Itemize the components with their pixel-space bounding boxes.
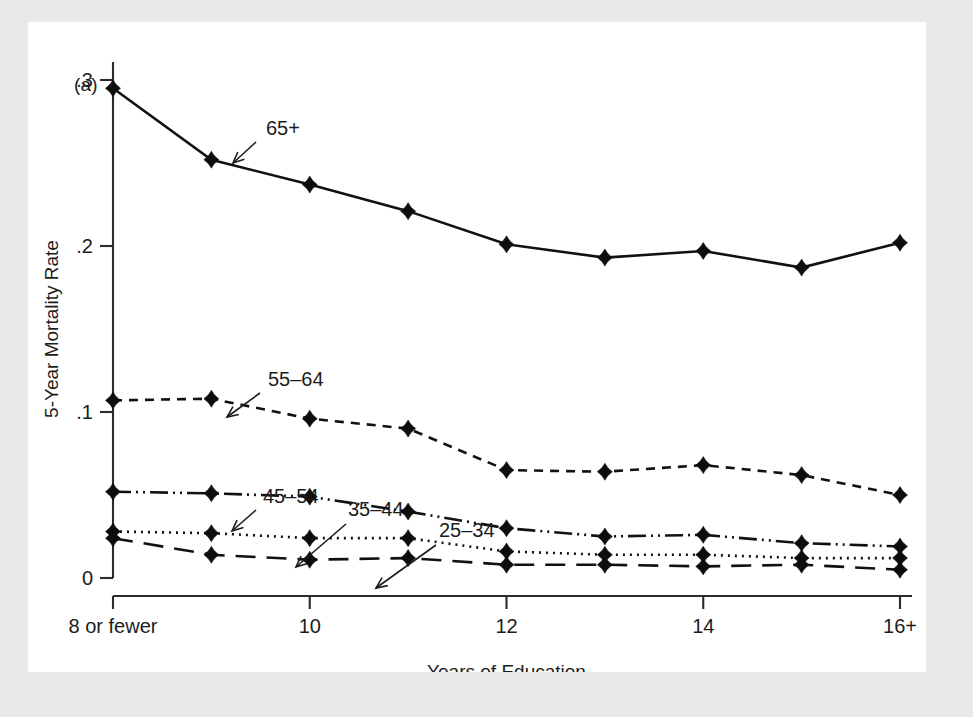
y-tick-label: .1: [76, 401, 93, 423]
y-axis-ticks: 0.1.2.3: [76, 69, 113, 589]
data-marker-55-64: [401, 420, 416, 437]
y-tick-label: .2: [76, 235, 93, 257]
data-marker-55-64: [893, 487, 908, 504]
mortality-education-line-chart: 0.1.2.3 8 or fewer10121416+ 65+55–6445–5…: [28, 22, 926, 672]
data-marker-25-34: [696, 558, 711, 575]
data-marker-55-64: [106, 392, 121, 409]
annotation-65+: 65+: [233, 117, 300, 163]
x-tick-label: 16+: [883, 615, 917, 637]
data-marker-35-44: [401, 530, 416, 547]
figure-frame: (a) 0.1.2.3 8 or fewer10121416+ 65+55–64…: [28, 22, 926, 672]
data-marker-65+: [499, 236, 514, 253]
annotation-55-64: 55–64: [227, 368, 324, 417]
data-marker-35-44: [302, 530, 317, 547]
data-marker-45-54: [597, 528, 612, 545]
x-tick-label: 8 or fewer: [69, 615, 158, 637]
series-line-45-54: [113, 492, 900, 547]
data-marker-45-54: [106, 483, 121, 500]
y-tick-label: 0: [82, 567, 93, 589]
x-tick-label: 14: [692, 615, 714, 637]
data-marker-55-64: [204, 390, 219, 407]
data-series-layer: [113, 88, 900, 569]
data-marker-55-64: [597, 463, 612, 480]
data-marker-45-54: [499, 520, 514, 537]
x-axis-title: Years of Education: [427, 661, 586, 672]
data-marker-65+: [302, 176, 317, 193]
data-marker-65+: [106, 80, 121, 97]
y-axis-title: 5-Year Mortality Rate: [41, 240, 62, 418]
data-marker-55-64: [794, 467, 809, 484]
annotation-label-55-64: 55–64: [268, 368, 324, 390]
x-axis-ticks: 8 or fewer10121416+: [69, 596, 917, 637]
series-annotations-layer: 65+55–6445–5435–4425–34: [227, 117, 495, 588]
annotation-label-45-54: 45–54: [263, 485, 319, 507]
annotation-arrow-55-64: [227, 393, 260, 417]
data-marker-65+: [597, 249, 612, 266]
data-marker-65+: [893, 234, 908, 251]
annotation-45-54: 45–54: [232, 485, 319, 531]
data-marker-35-44: [204, 525, 219, 542]
axes-layer: [113, 62, 912, 596]
y-tick-label: .3: [76, 69, 93, 91]
data-marker-45-54: [696, 526, 711, 543]
annotation-label-25-34: 25–34: [439, 519, 495, 541]
data-marker-25-34: [893, 561, 908, 578]
annotation-25-34: 25–34: [376, 519, 495, 588]
data-marker-65+: [696, 242, 711, 259]
x-tick-label: 12: [495, 615, 517, 637]
annotation-arrow-45-54: [232, 510, 256, 531]
data-marker-65+: [204, 151, 219, 168]
data-marker-55-64: [302, 410, 317, 427]
data-marker-55-64: [499, 462, 514, 479]
data-marker-25-34: [597, 556, 612, 573]
data-marker-65+: [401, 203, 416, 220]
figure-page: (a) 0.1.2.3 8 or fewer10121416+ 65+55–64…: [0, 0, 973, 717]
data-marker-25-34: [499, 556, 514, 573]
data-marker-45-54: [204, 485, 219, 502]
data-marker-25-34: [204, 546, 219, 563]
annotation-arrow-25-34: [376, 545, 436, 588]
data-markers-layer: [106, 80, 908, 578]
data-marker-55-64: [696, 457, 711, 474]
data-marker-65+: [794, 259, 809, 276]
x-tick-label: 10: [299, 615, 321, 637]
annotation-label-65+: 65+: [266, 117, 300, 139]
annotation-label-35-44: 35–44: [348, 498, 404, 520]
